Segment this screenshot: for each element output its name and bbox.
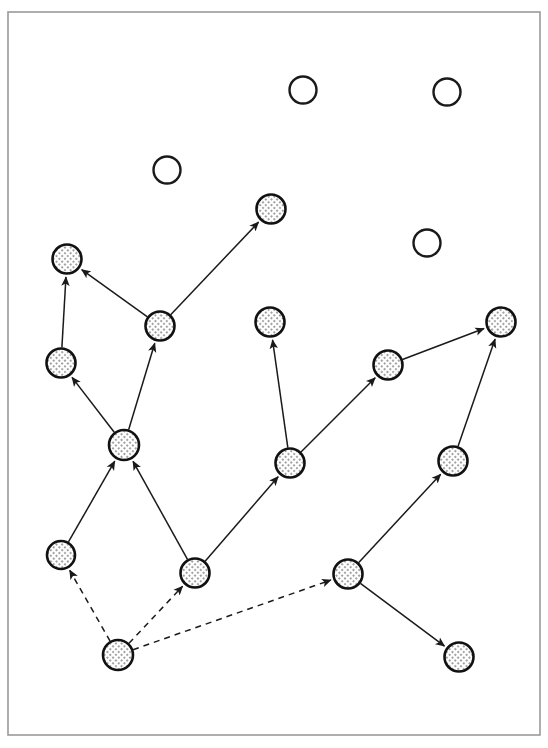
- graph-node-filled[interactable]: [146, 312, 175, 341]
- node-circle[interactable]: [276, 449, 305, 478]
- node-layer: [47, 77, 516, 672]
- graph-node-filled[interactable]: [53, 245, 82, 274]
- node-circle[interactable]: [414, 230, 441, 257]
- node-circle[interactable]: [47, 541, 75, 569]
- graph-edge-solid: [301, 378, 375, 452]
- graph-node-filled[interactable]: [47, 349, 76, 378]
- node-circle[interactable]: [154, 157, 181, 184]
- figure-border: [8, 12, 540, 735]
- node-circle[interactable]: [439, 447, 468, 476]
- graph-edge-solid: [360, 583, 444, 646]
- node-circle[interactable]: [109, 430, 139, 460]
- node-circle[interactable]: [374, 351, 403, 380]
- graph-edge-solid: [273, 340, 288, 448]
- graph-node-filled[interactable]: [181, 559, 210, 588]
- node-circle[interactable]: [103, 640, 133, 670]
- node-circle[interactable]: [445, 643, 474, 672]
- node-circle[interactable]: [53, 245, 82, 274]
- graph-edge-solid: [402, 328, 484, 359]
- graph-edge-solid: [171, 222, 259, 315]
- graph-node-filled[interactable]: [334, 560, 363, 589]
- graph-edge-solid: [82, 270, 148, 317]
- graph-node-filled[interactable]: [487, 308, 516, 337]
- graph-node-filled[interactable]: [257, 195, 286, 224]
- graph-node-filled[interactable]: [445, 643, 474, 672]
- graph-edge-solid: [458, 339, 495, 446]
- graph-node-filled[interactable]: [103, 640, 133, 670]
- node-circle[interactable]: [290, 77, 317, 104]
- node-circle[interactable]: [146, 312, 175, 341]
- node-circle[interactable]: [434, 79, 461, 106]
- graph-node-filled[interactable]: [256, 308, 285, 337]
- node-circle[interactable]: [47, 349, 76, 378]
- graph-edge-dashed: [133, 580, 331, 650]
- graph-canvas: [0, 0, 548, 748]
- graph-edge-solid: [72, 377, 114, 432]
- graph-node-filled[interactable]: [439, 447, 468, 476]
- node-circle[interactable]: [257, 195, 286, 224]
- graph-edge-solid: [133, 461, 187, 559]
- graph-node-empty[interactable]: [290, 77, 317, 104]
- node-circle[interactable]: [256, 308, 285, 337]
- node-circle[interactable]: [487, 308, 516, 337]
- graph-node-empty[interactable]: [154, 157, 181, 184]
- graph-edge-solid: [68, 461, 114, 542]
- graph-node-filled[interactable]: [374, 351, 403, 380]
- graph-node-filled[interactable]: [276, 449, 305, 478]
- graph-node-filled[interactable]: [47, 541, 75, 569]
- node-circle[interactable]: [181, 559, 210, 588]
- graph-edge-solid: [359, 474, 441, 562]
- graph-node-empty[interactable]: [434, 79, 461, 106]
- figure-root: [0, 0, 548, 748]
- node-circle[interactable]: [334, 560, 363, 589]
- graph-edge-dashed: [70, 570, 110, 641]
- graph-edge-solid: [129, 343, 155, 429]
- graph-node-empty[interactable]: [414, 230, 441, 257]
- graph-edge-solid: [205, 477, 278, 562]
- graph-node-filled[interactable]: [109, 430, 139, 460]
- graph-edge-solid: [62, 277, 66, 347]
